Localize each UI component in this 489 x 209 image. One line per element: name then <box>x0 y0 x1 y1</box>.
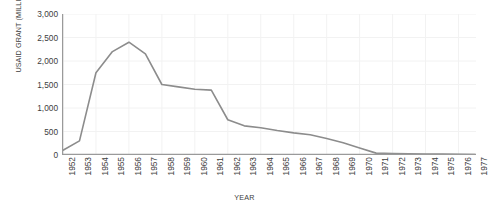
horizontal-gridlines <box>62 14 476 132</box>
y-tick-label: 0 <box>16 150 58 160</box>
usaid-grant-line-chart: USAID GRANT (MILLION USD) 05001,0001,500… <box>0 0 489 209</box>
x-tick-label: 1960 <box>199 157 209 175</box>
x-tick-label: 1964 <box>265 157 275 175</box>
x-tick-label: 1977 <box>479 157 489 175</box>
x-tick-label: 1969 <box>347 157 357 175</box>
x-tick-label: 1966 <box>298 157 308 175</box>
x-tick-label: 1976 <box>463 157 473 175</box>
data-series-line <box>63 42 475 154</box>
x-tick-label: 1963 <box>248 157 258 175</box>
x-tick-label: 1961 <box>215 157 225 175</box>
y-tick-label: 1,500 <box>16 80 58 90</box>
x-tick-label: 1956 <box>133 157 143 175</box>
x-tick-label: 1971 <box>380 157 390 175</box>
y-tick-label: 2,500 <box>16 33 58 43</box>
x-tick-label: 1958 <box>166 157 176 175</box>
x-tick-label: 1955 <box>116 157 126 175</box>
x-tick-label: 1968 <box>331 157 341 175</box>
x-tick-label: 1970 <box>364 157 374 175</box>
x-tick-label: 1972 <box>397 157 407 175</box>
x-tick-label: 1974 <box>430 157 440 175</box>
plot-area <box>62 14 476 155</box>
y-tick-label: 2,000 <box>16 56 58 66</box>
x-tick-label: 1952 <box>67 157 77 175</box>
x-tick-label: 1959 <box>182 157 192 175</box>
x-tick-label: 1973 <box>413 157 423 175</box>
x-tick-label: 1962 <box>232 157 242 175</box>
x-tick-label: 1975 <box>446 157 456 175</box>
x-tick-label: 1954 <box>100 157 110 175</box>
y-axis-tick-labels: 05001,0001,5002,0002,5003,000 <box>16 0 58 209</box>
y-tick-label: 3,000 <box>16 9 58 19</box>
x-tick-label: 1957 <box>149 157 159 175</box>
x-tick-label: 1953 <box>83 157 93 175</box>
x-tick-label: 1967 <box>314 157 324 175</box>
y-tick-label: 500 <box>16 127 58 137</box>
x-tick-label: 1965 <box>281 157 291 175</box>
x-axis-title: YEAR <box>0 193 489 202</box>
y-tick-label: 1,000 <box>16 103 58 113</box>
x-axis-tick-labels: 1952195319541955195619571958195919601961… <box>62 157 476 191</box>
chart-svg <box>62 14 476 155</box>
